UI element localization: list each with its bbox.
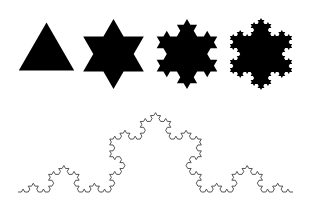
koch-iteration-2-snowflake	[157, 19, 218, 89]
koch-iteration-1-snowflake	[83, 19, 144, 89]
koch-curve	[18, 113, 293, 192]
koch-iteration-3-snowflake	[230, 18, 292, 90]
koch-curve-group	[18, 113, 293, 192]
koch-snowflake-sequence	[19, 18, 292, 90]
koch-fractal-figure	[0, 0, 310, 207]
koch-iteration-0-snowflake	[19, 23, 74, 71]
